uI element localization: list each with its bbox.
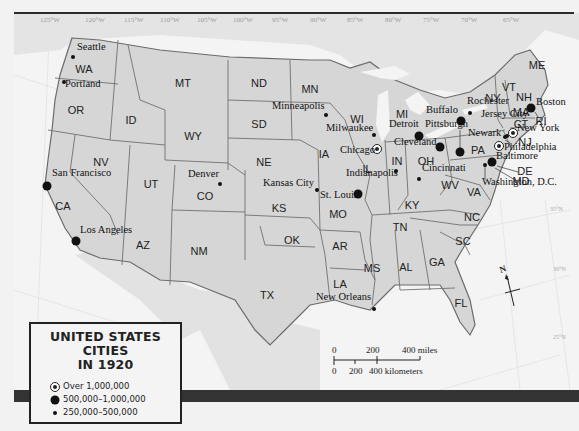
map-title-line2: IN 1920 bbox=[31, 358, 180, 372]
city-label: Newark bbox=[468, 127, 501, 138]
state-label-or: OR bbox=[68, 104, 85, 116]
longitude-label: 115°W bbox=[124, 16, 144, 24]
state-label-nc: NC bbox=[464, 211, 480, 223]
top-frame-rule bbox=[14, 12, 574, 14]
state-label-ga: GA bbox=[429, 256, 445, 268]
state-label-az: AZ bbox=[136, 239, 150, 251]
svg-text:N: N bbox=[498, 263, 508, 275]
north-arrow-icon: N bbox=[498, 262, 528, 316]
state-label-nd: ND bbox=[251, 77, 267, 89]
city-label: Cleveland bbox=[394, 136, 437, 147]
city-label: New Orleans bbox=[316, 291, 371, 302]
medium-city-dot-icon bbox=[51, 395, 60, 404]
city-label: Los Angeles bbox=[80, 224, 132, 235]
state-label-sc: SC bbox=[455, 235, 470, 247]
latitude-label: 30°N bbox=[553, 266, 566, 272]
city-label: Detroit bbox=[389, 118, 419, 129]
longitude-label: 105°W bbox=[197, 16, 217, 24]
state-label-ks: KS bbox=[272, 202, 287, 214]
scale-miles-200: 200 bbox=[366, 345, 380, 355]
state-label-ky: KY bbox=[405, 199, 420, 211]
state-label-al: AL bbox=[399, 261, 412, 273]
state-label-vt: VT bbox=[502, 81, 516, 93]
city-marker-icon bbox=[483, 163, 487, 167]
small-city-dot-icon bbox=[53, 411, 57, 415]
scale-km-200: 200 bbox=[349, 366, 363, 376]
state-label-fl: FL bbox=[455, 297, 468, 309]
city-marker-icon bbox=[417, 177, 421, 181]
state-label-mn: MN bbox=[301, 83, 318, 95]
longitude-label: 120°W bbox=[85, 16, 105, 24]
longitude-label: 110°W bbox=[160, 16, 180, 24]
city-label: Baltimore bbox=[496, 150, 538, 161]
latitude-label: 35°N bbox=[550, 206, 563, 212]
legend-item-250k-500k: 250,000–500,000 bbox=[31, 406, 180, 419]
longitude-label: 70°W bbox=[461, 16, 477, 24]
state-label-ar: AR bbox=[332, 240, 347, 252]
legend-label: 250,000–500,000 bbox=[63, 407, 138, 417]
scale-miles-400: 400 miles bbox=[402, 345, 437, 355]
city-marker-icon bbox=[218, 182, 222, 186]
scale-miles-0: 0 bbox=[332, 345, 337, 355]
legend-box: UNITED STATES CITIES IN 1920 Over 1,000,… bbox=[29, 322, 182, 424]
city-label: Pittsburgh bbox=[425, 118, 468, 129]
state-label-nm: NM bbox=[190, 245, 207, 257]
longitude-label: 90°W bbox=[310, 16, 326, 24]
city-marker-icon bbox=[43, 182, 52, 191]
city-label: New York bbox=[517, 122, 560, 133]
state-label-mo: MO bbox=[329, 208, 347, 220]
scale-km-400: 400 kilometers bbox=[369, 366, 423, 376]
state-label-sd: SD bbox=[251, 118, 266, 130]
map-title-line1: UNITED STATES CITIES bbox=[31, 330, 180, 358]
state-label-co: CO bbox=[197, 190, 214, 202]
latitude-label: 25°N bbox=[553, 334, 566, 340]
city-label: Boston bbox=[536, 96, 566, 107]
state-label-id: ID bbox=[126, 114, 137, 126]
state-label-wv: WV bbox=[441, 179, 459, 191]
longitude-label: 95°W bbox=[272, 16, 288, 24]
city-marker-icon bbox=[527, 104, 536, 113]
state-label-la: LA bbox=[333, 278, 346, 290]
longitude-label: 75°W bbox=[423, 16, 439, 24]
state-label-me: ME bbox=[529, 59, 546, 71]
longitude-label: 80°W bbox=[385, 16, 401, 24]
state-label-nh: NH bbox=[516, 91, 532, 103]
state-label-ok: OK bbox=[284, 234, 300, 246]
legend-label: 500,000–1,000,000 bbox=[63, 394, 146, 404]
city-label: Buffalo bbox=[426, 104, 458, 115]
city-label: Portland bbox=[65, 78, 101, 89]
large-city-ring-icon bbox=[50, 382, 60, 392]
legend-item-500k-1m: 500,000–1,000,000 bbox=[31, 393, 180, 406]
map-title: UNITED STATES CITIES IN 1920 bbox=[31, 330, 180, 372]
city-marker-icon bbox=[456, 148, 465, 157]
city-marker-icon bbox=[468, 111, 472, 115]
state-label-tn: TN bbox=[393, 221, 408, 233]
state-label-ut: UT bbox=[144, 178, 159, 190]
state-label-ca: CA bbox=[55, 200, 70, 212]
state-label-tx: TX bbox=[260, 289, 274, 301]
longitude-label: 125°W bbox=[40, 16, 60, 24]
city-label: Cincinnati bbox=[422, 162, 466, 173]
state-label-in: IN bbox=[392, 155, 403, 167]
city-label: Rochester bbox=[467, 95, 509, 106]
state-label-wy: WY bbox=[184, 130, 202, 142]
city-label: Washington, D.C. bbox=[482, 176, 557, 187]
state-label-va: VA bbox=[467, 186, 481, 198]
legend-item-over-1m: Over 1,000,000 bbox=[31, 380, 180, 393]
city-label: Jersey City bbox=[481, 108, 528, 119]
city-label: Kansas City bbox=[263, 177, 314, 188]
city-marker-icon bbox=[372, 307, 376, 311]
state-label-ia: IA bbox=[319, 148, 329, 160]
city-marker-icon bbox=[71, 55, 75, 59]
state-label-pa: PA bbox=[471, 144, 485, 156]
state-label-ne: NE bbox=[256, 156, 271, 168]
city-label: Milwaukee bbox=[326, 122, 373, 133]
city-label: Indianapolis bbox=[346, 167, 398, 178]
city-marker-icon bbox=[72, 237, 81, 246]
state-label-wa: WA bbox=[75, 63, 92, 75]
state-label-mt: MT bbox=[175, 77, 191, 89]
city-label: Seattle bbox=[77, 41, 106, 52]
city-marker-icon bbox=[503, 135, 507, 139]
legend-label: Over 1,000,000 bbox=[63, 381, 129, 391]
scale-km-0: 0 bbox=[332, 366, 337, 376]
